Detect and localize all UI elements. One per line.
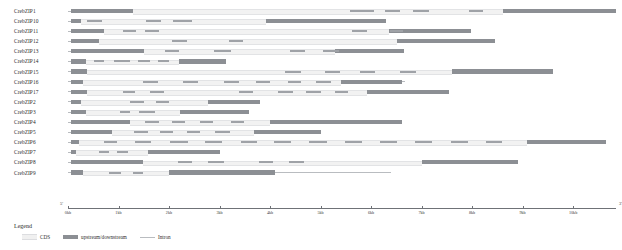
- upstream-downstream-segment[interactable]: [71, 130, 113, 134]
- gene-track[interactable]: [68, 46, 616, 56]
- exon-segment[interactable]: [214, 50, 230, 52]
- exon-segment[interactable]: [229, 40, 243, 42]
- gene-track[interactable]: [68, 56, 616, 66]
- upstream-downstream-segment[interactable]: [179, 59, 225, 63]
- upstream-downstream-segment[interactable]: [452, 69, 553, 73]
- exon-segment[interactable]: [123, 30, 137, 32]
- upstream-downstream-segment[interactable]: [71, 170, 84, 174]
- upstream-downstream-segment[interactable]: [71, 29, 105, 33]
- exon-segment[interactable]: [150, 91, 164, 93]
- exon-segment[interactable]: [139, 111, 155, 113]
- exon-segment[interactable]: [316, 81, 330, 83]
- exon-segment[interactable]: [120, 111, 130, 113]
- upstream-downstream-segment[interactable]: [71, 150, 77, 154]
- exon-segment[interactable]: [145, 121, 159, 123]
- exon-segment[interactable]: [173, 20, 192, 22]
- exon-segment[interactable]: [451, 141, 468, 143]
- cds-segment[interactable]: [99, 39, 397, 45]
- exon-segment[interactable]: [323, 50, 339, 52]
- gene-row[interactable]: CrebZIP1: [0, 6, 622, 16]
- gene-row[interactable]: CrebZIP3: [0, 107, 622, 117]
- upstream-downstream-segment[interactable]: [527, 140, 606, 144]
- gene-row[interactable]: CrebZIP7: [0, 147, 622, 157]
- gene-track[interactable]: [68, 168, 616, 178]
- upstream-downstream-segment[interactable]: [71, 49, 144, 53]
- exon-segment[interactable]: [390, 30, 403, 32]
- exon-segment[interactable]: [385, 10, 400, 12]
- exon-segment[interactable]: [99, 151, 109, 153]
- exon-segment[interactable]: [486, 141, 502, 143]
- upstream-downstream-segment[interactable]: [180, 110, 249, 114]
- upstream-downstream-segment[interactable]: [367, 90, 449, 94]
- exon-segment[interactable]: [123, 91, 135, 93]
- gene-track[interactable]: [68, 77, 616, 87]
- gene-row[interactable]: CrebZIP12: [0, 36, 622, 46]
- upstream-downstream-segment[interactable]: [503, 9, 616, 13]
- gene-row[interactable]: CrebZIP9: [0, 168, 622, 178]
- exon-segment[interactable]: [345, 141, 362, 143]
- upstream-downstream-segment[interactable]: [71, 160, 143, 164]
- exon-segment[interactable]: [133, 172, 143, 174]
- upstream-downstream-segment[interactable]: [397, 39, 494, 43]
- exon-segment[interactable]: [172, 40, 188, 42]
- upstream-downstream-segment[interactable]: [71, 90, 88, 94]
- legend-item[interactable]: CDS: [22, 233, 50, 241]
- exon-segment[interactable]: [380, 141, 397, 143]
- exon-segment[interactable]: [325, 71, 340, 73]
- exon-segment[interactable]: [309, 141, 326, 143]
- upstream-downstream-segment[interactable]: [266, 19, 386, 23]
- exon-segment[interactable]: [256, 81, 270, 83]
- exon-segment[interactable]: [138, 60, 150, 62]
- upstream-downstream-segment[interactable]: [335, 49, 405, 53]
- exon-segment[interactable]: [306, 91, 320, 93]
- gene-track[interactable]: [68, 127, 616, 137]
- exon-segment[interactable]: [239, 91, 253, 93]
- upstream-downstream-segment[interactable]: [422, 160, 518, 164]
- exon-segment[interactable]: [215, 131, 229, 133]
- exon-segment[interactable]: [134, 131, 148, 133]
- exon-segment[interactable]: [156, 101, 169, 103]
- cds-segment[interactable]: [133, 9, 504, 15]
- gene-row[interactable]: CrebZIP2: [0, 97, 622, 107]
- gene-row[interactable]: CrebZIP13: [0, 46, 622, 56]
- exon-segment[interactable]: [352, 30, 367, 32]
- gene-row[interactable]: CrebZIP10: [0, 16, 622, 26]
- cds-segment[interactable]: [76, 150, 148, 156]
- legend-item[interactable]: upstream/downstream: [63, 233, 127, 241]
- exon-segment[interactable]: [413, 10, 429, 12]
- gene-row[interactable]: CrebZIP11: [0, 26, 622, 36]
- cds-segment[interactable]: [86, 110, 180, 116]
- exon-segment[interactable]: [187, 131, 201, 133]
- gene-row[interactable]: CrebZIP8: [0, 157, 622, 167]
- gene-track[interactable]: [68, 137, 616, 147]
- upstream-downstream-segment[interactable]: [71, 140, 80, 144]
- gene-track[interactable]: [68, 117, 616, 127]
- exon-segment[interactable]: [285, 71, 301, 73]
- exon-segment[interactable]: [114, 60, 129, 62]
- upstream-downstream-segment[interactable]: [254, 130, 321, 134]
- exon-segment[interactable]: [178, 161, 192, 163]
- exon-segment[interactable]: [135, 141, 152, 143]
- exon-segment[interactable]: [104, 141, 117, 143]
- gene-track[interactable]: [68, 97, 616, 107]
- exon-segment[interactable]: [288, 81, 302, 83]
- exon-segment[interactable]: [208, 161, 223, 163]
- gene-track[interactable]: [68, 107, 616, 117]
- upstream-downstream-segment[interactable]: [169, 170, 275, 174]
- gene-track[interactable]: [68, 16, 616, 26]
- exon-segment[interactable]: [224, 81, 239, 83]
- upstream-downstream-segment[interactable]: [71, 120, 130, 124]
- exon-segment[interactable]: [170, 141, 188, 143]
- exon-segment[interactable]: [415, 141, 431, 143]
- exon-segment[interactable]: [87, 20, 102, 22]
- upstream-downstream-segment[interactable]: [71, 100, 81, 104]
- gene-track[interactable]: [68, 26, 616, 36]
- exon-segment[interactable]: [130, 101, 144, 103]
- exon-segment[interactable]: [290, 50, 305, 52]
- exon-segment[interactable]: [360, 71, 375, 73]
- exon-segment[interactable]: [165, 50, 179, 52]
- exon-segment[interactable]: [160, 131, 173, 133]
- cds-segment[interactable]: [81, 100, 209, 106]
- gene-row[interactable]: CrebZIP15: [0, 67, 622, 77]
- gene-row[interactable]: CrebZIP14: [0, 56, 622, 66]
